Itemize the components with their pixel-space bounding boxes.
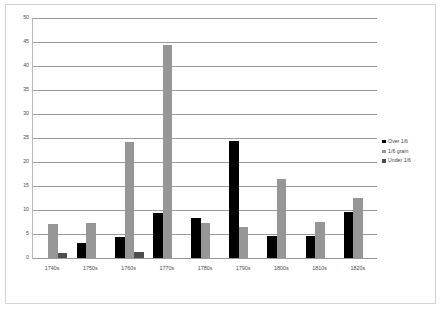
chart-legend: Over 1/61/6 grainUnder 1/6: [382, 139, 430, 164]
bar: [48, 224, 58, 258]
bar: [115, 237, 125, 258]
x-axis-category-label: 1750s: [71, 259, 109, 285]
x-axis-category-label: 1810s: [301, 259, 339, 285]
bar-group: [72, 18, 110, 258]
y-axis-tick-label: 50: [23, 15, 29, 20]
bar-group: [34, 18, 72, 258]
bar-group: [148, 18, 186, 258]
bar-group: [263, 18, 301, 258]
y-axis-tick-label: 0: [26, 255, 29, 260]
bar: [163, 45, 173, 258]
x-axis-category-label: 1800s: [262, 259, 300, 285]
bar: [201, 223, 211, 258]
x-axis-category-label: 1820s: [339, 259, 377, 285]
x-axis-category-label: 1740s: [33, 259, 71, 285]
bar: [267, 236, 277, 258]
x-axis-category-labels: 1740s1750s1760s1770s1780s1790s1800s1810s…: [33, 259, 377, 285]
y-axis-tick-label: 45: [23, 39, 29, 44]
legend-swatch-icon: [382, 159, 386, 163]
bar: [153, 213, 163, 258]
chart-frame: 05101520253035404550 1740s1750s1760s1770…: [5, 4, 436, 304]
legend-swatch-icon: [382, 150, 386, 154]
y-axis-tick-label: 10: [23, 207, 29, 212]
bar: [315, 222, 325, 258]
y-axis-tick-label: 5: [26, 231, 29, 236]
bar: [125, 142, 135, 258]
bar: [229, 141, 239, 258]
legend-label: Under 1/6: [388, 158, 411, 163]
x-axis-category-label: 1760s: [109, 259, 147, 285]
bar: [344, 212, 354, 258]
x-axis-category-label: 1780s: [186, 259, 224, 285]
y-axis-tick-label: 20: [23, 159, 29, 164]
bar-series-container: [34, 18, 377, 258]
bar-group: [225, 18, 263, 258]
bar: [86, 223, 96, 258]
legend-item[interactable]: Over 1/6: [382, 139, 430, 144]
y-axis-tick-label: 30: [23, 111, 29, 116]
y-axis-tick-label: 15: [23, 183, 29, 188]
bar: [134, 252, 144, 258]
bar: [277, 179, 287, 258]
y-axis-tick-label: 25: [23, 135, 29, 140]
plot-wrapper: 05101520253035404550 1740s1750s1760s1770…: [32, 18, 377, 285]
plot-area: 05101520253035404550: [32, 18, 377, 259]
bar: [191, 218, 201, 258]
legend-label: 1/6 grain: [388, 149, 408, 154]
x-axis-category-label: 1790s: [224, 259, 262, 285]
bar-group: [301, 18, 339, 258]
bar: [239, 227, 249, 258]
legend-item[interactable]: 1/6 grain: [382, 149, 430, 154]
bar-group: [186, 18, 224, 258]
legend-swatch-icon: [382, 140, 386, 144]
y-axis-tick-label: 35: [23, 87, 29, 92]
bar: [77, 243, 87, 258]
bar: [353, 198, 363, 258]
bar: [306, 236, 316, 258]
legend-item[interactable]: Under 1/6: [382, 158, 430, 163]
x-axis-category-label: 1770s: [148, 259, 186, 285]
bar: [58, 253, 68, 258]
legend-label: Over 1/6: [388, 139, 408, 144]
bar-group: [339, 18, 377, 258]
bar-group: [110, 18, 148, 258]
y-axis-tick-label: 40: [23, 63, 29, 68]
